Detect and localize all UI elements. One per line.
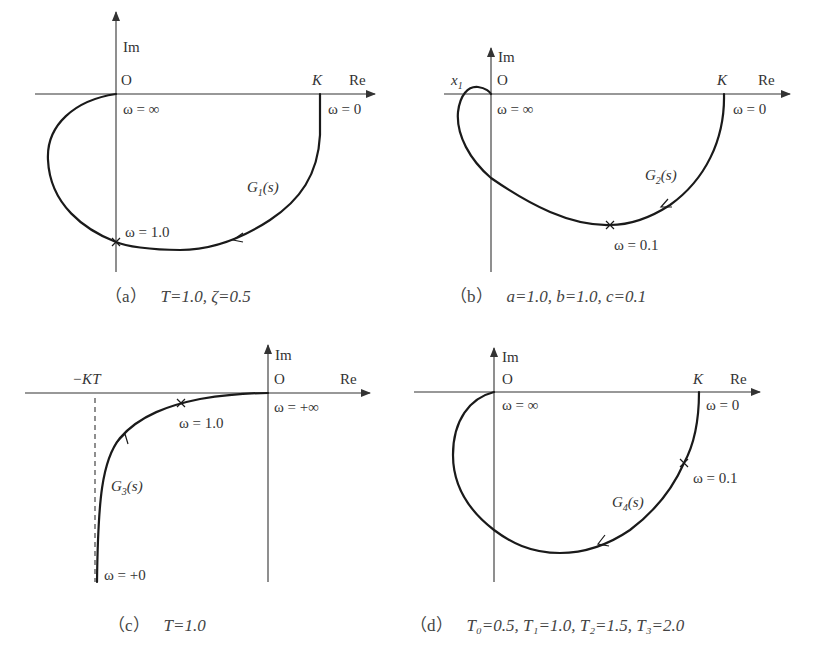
k-label: K <box>311 72 323 88</box>
nyquist-curve-g4 <box>453 392 699 553</box>
nyquist-curve-g1 <box>48 94 320 250</box>
nyquist-figure: Im O Re K ω = ∞ ω = 0 ω = 1.0 G1(s) （a）T… <box>0 0 828 654</box>
panel-a: Im O Re K ω = ∞ ω = 0 ω = 1.0 G1(s) （a）T… <box>35 12 375 306</box>
marker-label: ω = 0.1 <box>614 237 659 253</box>
marker-cross <box>680 459 688 467</box>
caption-c: （c）T=1.0 <box>108 616 206 635</box>
omega-inf-label: ω = ∞ <box>502 397 539 413</box>
neg-kt-label: −KT <box>72 371 102 387</box>
marker-label: ω = 1.0 <box>179 415 224 431</box>
re-label: Re <box>340 371 357 387</box>
x1-label: x1 <box>450 72 463 91</box>
origin-label: O <box>274 371 285 387</box>
curve-label: G3(s) <box>111 478 143 497</box>
im-label: Im <box>498 49 515 65</box>
curve-label: G1(s) <box>247 179 279 198</box>
omega-zero-label: ω = 0 <box>733 101 766 117</box>
origin-label: O <box>502 371 513 387</box>
origin-label: O <box>497 72 508 88</box>
panel-c: Im O Re −KT ω = +∞ ω = 1.0 ω = +0 G3(s) … <box>25 345 370 635</box>
marker-label: ω = 0.1 <box>693 470 738 486</box>
omega-inf-label: ω = ∞ <box>497 101 534 117</box>
caption-b: （b）a=1.0, b=1.0, c=0.1 <box>450 287 646 306</box>
omega-inf-label: ω = +∞ <box>274 399 319 415</box>
panel-b: Im O Re K x1 ω = ∞ ω = 0 ω = 0.1 G2(s) （… <box>444 48 790 306</box>
curve-label: G2(s) <box>645 167 677 186</box>
panel-d: Im O Re K ω = ∞ ω = 0 ω = 0.1 G4(s) （d）T… <box>410 348 760 635</box>
omega-zero-label: ω = 0 <box>706 397 739 413</box>
k-label: K <box>692 371 704 387</box>
im-label: Im <box>123 39 140 55</box>
im-label: Im <box>502 349 519 365</box>
k-label: K <box>716 72 728 88</box>
curve-label: G4(s) <box>612 494 644 513</box>
caption-a: （a）T=1.0, ζ=0.5 <box>105 287 251 306</box>
re-label: Re <box>730 371 747 387</box>
re-label: Re <box>349 72 366 88</box>
omega-inf-label: ω = ∞ <box>123 101 160 117</box>
origin-label: O <box>121 72 132 88</box>
caption-d: （d）T₀=0.5, T₁=1.0, T₂=1.5, T₃=2.0 <box>410 616 685 635</box>
omega-zero-label: ω = 0 <box>328 101 361 117</box>
marker-label: ω = 1.0 <box>125 224 170 240</box>
im-label: Im <box>275 347 292 363</box>
re-label: Re <box>758 72 775 88</box>
omega-zero-label: ω = +0 <box>104 567 146 583</box>
